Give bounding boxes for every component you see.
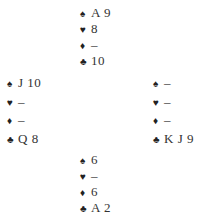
club-icon: ♣ — [153, 131, 163, 150]
north-spades: A 9 — [91, 5, 111, 20]
east-hearts: – — [164, 94, 171, 109]
diamond-icon: ♦ — [7, 112, 17, 131]
west-hand: ♠J 10 ♥– ♦– ♣Q 8 — [7, 74, 41, 148]
north-hand: ♠A 9 ♥8 ♦– ♣10 — [80, 5, 111, 69]
heart-icon: ♥ — [80, 169, 90, 185]
club-icon: ♣ — [80, 201, 90, 215]
north-hearts: 8 — [91, 21, 98, 36]
club-icon: ♣ — [7, 131, 17, 150]
spade-icon: ♠ — [80, 6, 90, 22]
south-diamonds-row: ♦6 — [80, 184, 111, 200]
east-diamonds: – — [164, 112, 171, 127]
east-spades-row: ♠– — [153, 74, 194, 93]
east-diamonds-row: ♦– — [153, 111, 194, 130]
spade-icon: ♠ — [80, 153, 90, 169]
west-spades: J 10 — [18, 75, 41, 90]
west-hearts: – — [18, 94, 25, 109]
north-hearts-row: ♥8 — [80, 21, 111, 37]
west-diamonds-row: ♦– — [7, 111, 41, 130]
west-hearts-row: ♥– — [7, 93, 41, 112]
north-clubs: 10 — [91, 53, 105, 68]
heart-icon: ♥ — [153, 94, 163, 113]
south-spades: 6 — [91, 152, 98, 167]
west-clubs: Q 8 — [18, 131, 39, 146]
west-clubs-row: ♣Q 8 — [7, 130, 41, 149]
north-diamonds: – — [91, 37, 98, 52]
north-spades-row: ♠A 9 — [80, 5, 111, 21]
west-spades-row: ♠J 10 — [7, 74, 41, 93]
east-spades: – — [164, 75, 171, 90]
south-spades-row: ♠6 — [80, 152, 111, 168]
east-hearts-row: ♥– — [153, 93, 194, 112]
spade-icon: ♠ — [7, 75, 17, 94]
west-diamonds: – — [18, 112, 25, 127]
diamond-icon: ♦ — [80, 185, 90, 201]
south-hand: ♠6 ♥– ♦6 ♣A 2 — [80, 152, 111, 215]
south-clubs: A 2 — [91, 200, 111, 215]
diamond-icon: ♦ — [80, 38, 90, 54]
south-hearts: – — [91, 168, 98, 183]
spade-icon: ♠ — [153, 75, 163, 94]
south-diamonds: 6 — [91, 184, 98, 199]
east-clubs-row: ♣K J 9 — [153, 130, 194, 149]
south-clubs-row: ♣A 2 — [80, 200, 111, 215]
north-diamonds-row: ♦– — [80, 37, 111, 53]
north-clubs-row: ♣10 — [80, 53, 111, 69]
east-hand: ♠– ♥– ♦– ♣K J 9 — [153, 74, 194, 148]
diamond-icon: ♦ — [153, 112, 163, 131]
heart-icon: ♥ — [7, 94, 17, 113]
heart-icon: ♥ — [80, 22, 90, 38]
south-hearts-row: ♥– — [80, 168, 111, 184]
club-icon: ♣ — [80, 54, 90, 70]
east-clubs: K J 9 — [164, 131, 194, 146]
